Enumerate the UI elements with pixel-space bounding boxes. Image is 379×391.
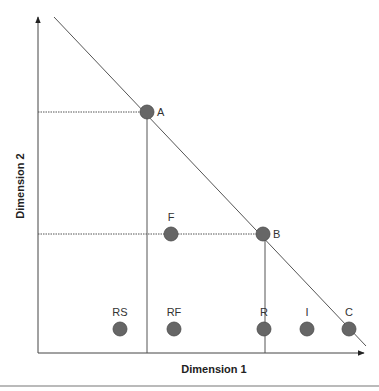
point-b <box>256 227 270 241</box>
point-c <box>342 322 356 336</box>
point-label-rf: RF <box>167 306 182 318</box>
frontier-line <box>54 17 366 346</box>
point-label-i: I <box>305 306 308 318</box>
point-label-f: F <box>168 211 175 223</box>
point-label-c: C <box>345 306 353 318</box>
point-i <box>300 322 314 336</box>
point-rf <box>167 322 181 336</box>
x-axis-label: Dimension 1 <box>181 363 246 375</box>
point-f <box>164 227 178 241</box>
point-label-rs: RS <box>112 306 127 318</box>
point-rs <box>113 322 127 336</box>
point-label-a: A <box>157 106 165 118</box>
point-r <box>257 322 271 336</box>
diagram-canvas: ABFRSRFRIC Dimension 1 Dimension 2 <box>0 0 379 391</box>
point-label-r: R <box>260 306 268 318</box>
point-a <box>140 105 154 119</box>
y-axis-label: Dimension 2 <box>14 153 26 218</box>
point-label-b: B <box>273 228 280 240</box>
